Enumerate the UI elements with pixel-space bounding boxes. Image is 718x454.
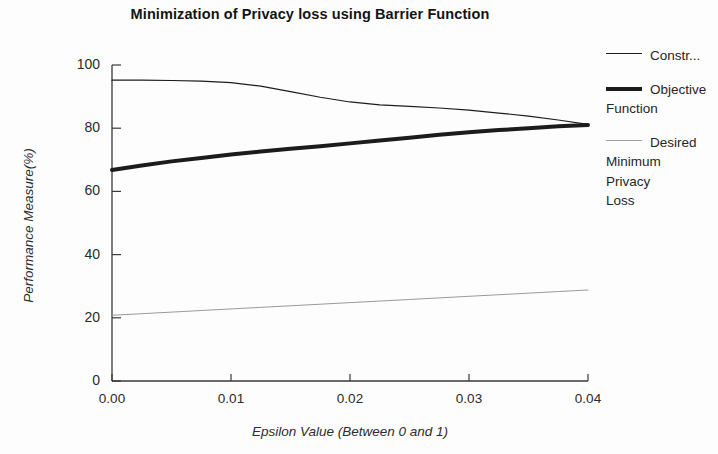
series-line-2 — [112, 290, 588, 315]
x-tick-label: 0.03 — [439, 391, 499, 406]
x-tick-label: 0.00 — [82, 391, 142, 406]
legend-label: Desired Minimum Privacy Loss — [606, 135, 697, 209]
y-tick-label: 20 — [54, 309, 100, 325]
data-series — [112, 80, 588, 315]
series-line-0 — [112, 80, 588, 124]
light-line-swatch — [606, 140, 642, 141]
x-axis-title: Epsilon Value (Between 0 and 1) — [110, 424, 590, 439]
y-tick-label: 0 — [54, 372, 100, 388]
chart-legend: Constr...Objective FunctionDesired Minim… — [606, 46, 718, 215]
x-tick-label: 0.02 — [320, 391, 380, 406]
chart-page: Minimization of Privacy loss using Barri… — [0, 0, 718, 454]
thick-line-swatch — [606, 87, 642, 92]
legend-label: Constr... — [650, 48, 700, 63]
y-tick-label: 60 — [54, 182, 100, 198]
legend-entry[interactable]: Objective Function — [606, 80, 718, 119]
y-tick-label: 100 — [54, 56, 100, 72]
y-tick-label: 40 — [54, 246, 100, 262]
legend-entry[interactable]: Constr... — [606, 46, 718, 66]
x-tick-label: 0.04 — [558, 391, 618, 406]
series-line-1 — [112, 125, 588, 170]
legend-entry[interactable]: Desired Minimum Privacy Loss — [606, 133, 718, 211]
y-tick-label: 80 — [54, 119, 100, 135]
x-tick-label: 0.01 — [201, 391, 261, 406]
axes — [112, 65, 588, 381]
thin-line-swatch — [606, 53, 642, 54]
y-axis-title: Performance Measure(%) — [21, 116, 36, 336]
